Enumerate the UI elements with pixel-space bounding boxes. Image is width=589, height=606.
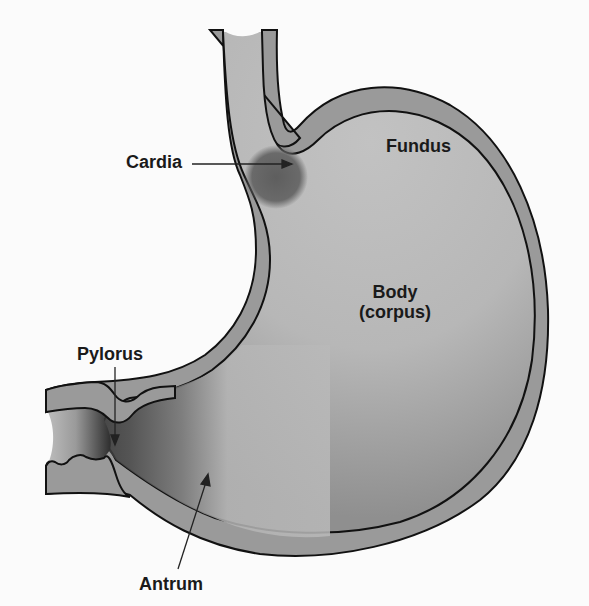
label-fundus: Fundus <box>386 137 451 157</box>
label-body-line1: Body <box>345 283 445 303</box>
duodenum-opening <box>44 414 52 464</box>
stomach-illustration <box>0 0 589 606</box>
stomach-diagram: Cardia Fundus Body (corpus) Pylorus Antr… <box>0 0 589 606</box>
label-body-line2: (corpus) <box>345 303 445 323</box>
label-antrum: Antrum <box>139 575 203 595</box>
label-pylorus: Pylorus <box>77 345 143 365</box>
label-cardia: Cardia <box>126 153 182 173</box>
label-body: Body (corpus) <box>345 283 445 323</box>
cardia-region <box>244 145 308 209</box>
antrum-shading <box>102 345 330 537</box>
